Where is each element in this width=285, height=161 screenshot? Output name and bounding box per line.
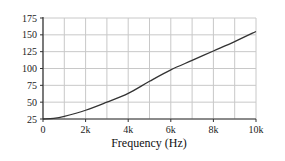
grid-lines	[43, 18, 256, 119]
y-tick-label: 175	[22, 13, 37, 24]
y-tick-label: 25	[27, 114, 37, 125]
y-tick-label: 50	[27, 97, 37, 108]
frequency-line-chart: 255075100125150175 02k4k6k8k10k Frequenc…	[0, 0, 285, 161]
y-tick-label: 100	[22, 63, 37, 74]
x-tick-label: 2k	[81, 124, 91, 135]
y-axis-tick-labels: 255075100125150175	[22, 13, 37, 125]
x-tick-label: 0	[41, 124, 46, 135]
x-axis-label: Frequency (Hz)	[111, 136, 187, 150]
y-tick-label: 150	[22, 29, 37, 40]
y-tick-label: 75	[27, 80, 37, 91]
axes	[40, 17, 256, 122]
x-tick-label: 8k	[208, 124, 218, 135]
x-axis-tick-labels: 02k4k6k8k10k	[41, 124, 264, 135]
x-tick-label: 4k	[123, 124, 133, 135]
x-tick-label: 10k	[249, 124, 264, 135]
x-tick-label: 6k	[166, 124, 176, 135]
y-tick-label: 125	[22, 46, 37, 57]
